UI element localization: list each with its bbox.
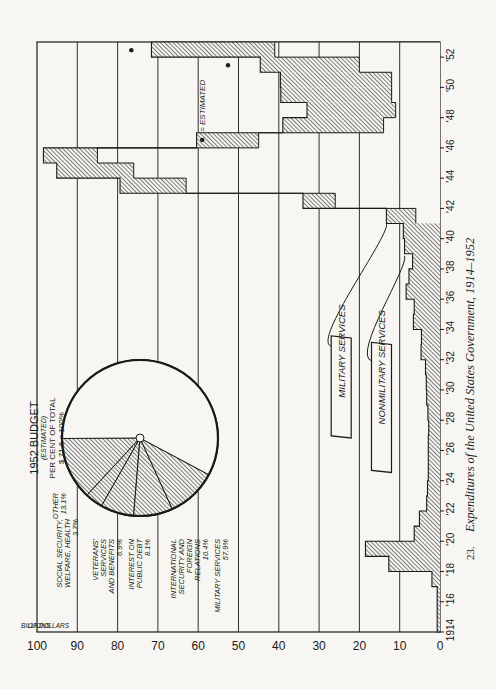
pie-title-text: PER CENT OF TOTAL	[48, 397, 57, 478]
bar-nonmilitary	[260, 57, 359, 72]
bar-total-prewar	[426, 375, 440, 390]
bar-nonmilitary	[280, 72, 391, 87]
pie-slice-label: 10.4%	[201, 539, 210, 561]
bar-nonmilitary	[281, 87, 392, 102]
year-tick-label: '50	[445, 78, 456, 91]
value-tick-label: 50	[232, 639, 246, 653]
pie-title-text: (ESTIMATED)	[40, 416, 48, 460]
year-tick-label: '16	[445, 593, 456, 606]
estimated-dot	[129, 48, 133, 52]
bar-total-prewar	[421, 345, 440, 360]
pie-hub	[136, 434, 144, 442]
bar-total-prewar	[428, 481, 440, 496]
value-tick-label: 0	[437, 639, 444, 653]
value-tick-label: 30	[312, 639, 326, 653]
pie-title-text: $ 71.6 = 100%	[57, 412, 66, 464]
bar-total-prewar	[421, 329, 440, 344]
bar-total-prewar	[405, 239, 440, 254]
chart-figure: 0102030405060708090100BILLIONSOF DOLLARS…	[0, 0, 496, 689]
year-tick-label: '46	[445, 139, 456, 152]
value-tick-label: 60	[192, 639, 206, 653]
bar-nonmilitary	[197, 133, 259, 148]
year-tick-label: 1914	[445, 618, 456, 641]
year-tick-label: '40	[445, 230, 456, 243]
pie-slice-label: 13.1%	[59, 493, 68, 515]
bar-total-prewar	[413, 314, 440, 329]
bar-total-prewar	[403, 224, 440, 239]
value-tick-label: 20	[353, 639, 367, 653]
bar-nonmilitary	[386, 208, 415, 223]
bar-total-prewar	[427, 496, 440, 511]
bar-total-prewar	[365, 541, 440, 556]
military-callout-text: MILITARY SERVICES	[336, 304, 347, 398]
nonmilitary-callout-text: NONMILITARY SERVICES	[376, 310, 387, 425]
year-tick-label: '20	[445, 532, 456, 545]
year-tick-label: '32	[445, 351, 456, 364]
bar-total-prewar	[427, 390, 440, 405]
bar-total-prewar	[428, 405, 440, 420]
bar-total-prewar	[428, 466, 440, 481]
bar-total-prewar	[419, 511, 440, 526]
year-tick-label: '52	[445, 48, 456, 61]
bar-total-prewar	[406, 284, 440, 299]
rotated-chart: 0102030405060708090100BILLIONSOF DOLLARS…	[21, 42, 456, 653]
estimated-legend-dot	[200, 138, 204, 142]
value-tick-label: 40	[272, 639, 286, 653]
bar-nonmilitary	[307, 103, 396, 118]
year-tick-label: '38	[445, 260, 456, 273]
pie-slice-label: 57.9%	[221, 539, 230, 561]
bar-nonmilitary	[120, 178, 186, 193]
bar-nonmilitary	[283, 118, 384, 133]
bar-nonmilitary	[57, 163, 134, 178]
pie-slice-label: 3.7%	[71, 519, 80, 536]
bar-nonmilitary	[151, 42, 274, 57]
year-tick-label: '28	[445, 411, 456, 424]
chart-svg: 0102030405060708090100BILLIONSOF DOLLARS…	[0, 0, 496, 689]
year-tick-label: '18	[445, 563, 456, 576]
bar-nonmilitary	[303, 193, 335, 208]
year-tick-label: '36	[445, 290, 456, 303]
year-tick-label: '48	[445, 109, 456, 122]
bar-total-prewar	[413, 254, 440, 269]
caption-title: Expenditures of the United States Govern…	[463, 238, 477, 533]
value-tick-label: 90	[71, 639, 85, 653]
year-tick-label: '44	[445, 169, 456, 182]
value-tick-label: 10	[393, 639, 407, 653]
bar-nonmilitary	[43, 148, 97, 163]
bar-total-prewar	[428, 450, 440, 465]
year-tick-label: '24	[445, 472, 456, 485]
bar-total-prewar	[429, 420, 440, 435]
plot-area: 0102030405060708090100BILLIONSOF DOLLARS…	[21, 42, 456, 653]
caption-number: 23.	[464, 546, 476, 560]
pie-slice-label: 6.9%	[115, 539, 124, 556]
value-tick-label: 80	[111, 639, 125, 653]
figure-caption: 23.Expenditures of the United States Gov…	[463, 238, 477, 560]
value-tick-label: 100	[27, 639, 47, 653]
year-tick-label: '26	[445, 442, 456, 455]
bar-total-prewar	[432, 571, 440, 586]
bar-total-prewar	[389, 556, 440, 571]
bar-total-prewar	[425, 360, 440, 375]
estimated-legend-text: = ESTIMATED	[198, 80, 207, 132]
bar-total-prewar	[428, 435, 440, 450]
bar-total-prewar	[409, 269, 440, 284]
axis-unit-label: OF DOLLARS	[28, 622, 70, 629]
value-tick-label: 70	[151, 639, 165, 653]
year-tick-label: '34	[445, 320, 456, 333]
pie-title-text: 1952 BUDGET	[28, 401, 40, 475]
bar-total-prewar	[414, 299, 440, 314]
year-tick-label: '42	[445, 199, 456, 212]
pie-slice-label: 8.1%	[143, 539, 152, 556]
estimated-dot	[226, 63, 230, 67]
year-tick-label: '22	[445, 502, 456, 515]
bar-total-prewar	[414, 526, 440, 541]
year-tick-label: '30	[445, 381, 456, 394]
